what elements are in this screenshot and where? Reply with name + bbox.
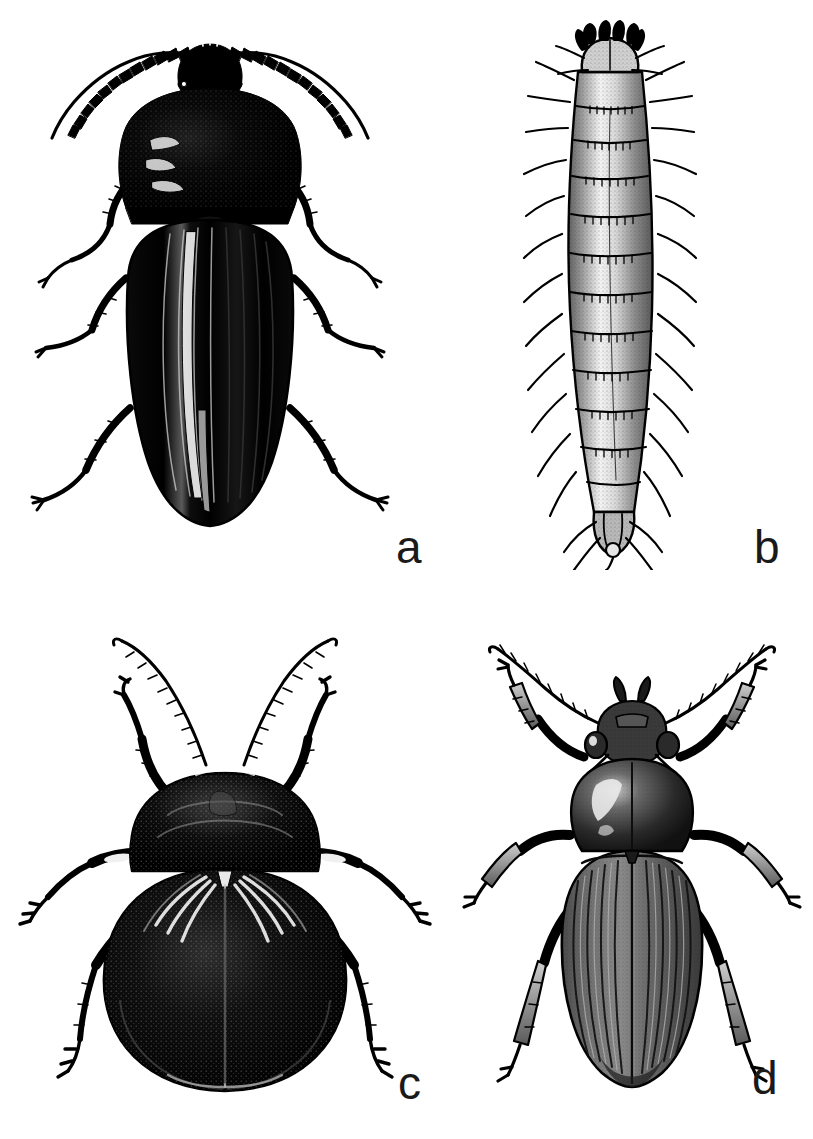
- figure-plate: a: [0, 0, 813, 1139]
- panel-d-ground-beetle: [450, 605, 813, 1105]
- beetle-illustration-d: [450, 605, 813, 1105]
- panel-b-larva: [470, 10, 770, 570]
- panel-label-b: b: [754, 524, 780, 570]
- panel-label-a: a: [396, 524, 422, 570]
- panel-label-d: d: [752, 1055, 778, 1101]
- panel-c-oval-beetle: [0, 605, 450, 1105]
- panel-label-c: c: [398, 1060, 421, 1106]
- larva-illustration-b: [470, 10, 770, 570]
- panel-a-adult-beetle: [0, 10, 420, 570]
- beetle-illustration-c: [0, 605, 450, 1105]
- beetle-illustration-a: [0, 10, 420, 570]
